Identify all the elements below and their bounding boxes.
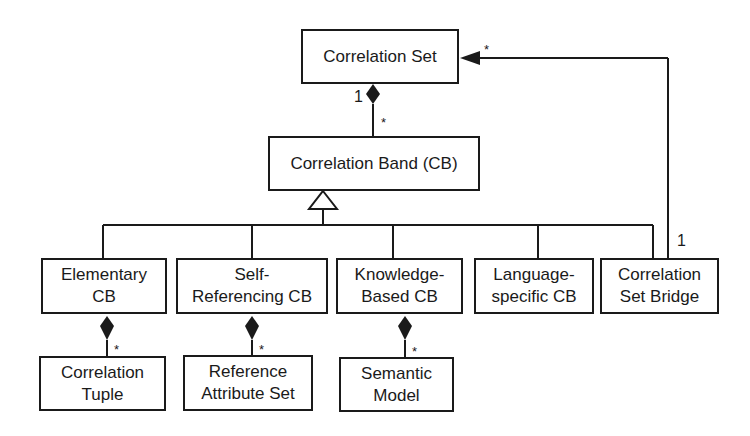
class-label-line1: Semantic <box>361 363 432 385</box>
class-label-line2: specific CB <box>491 286 576 308</box>
correlation-set-bridge-class: Correlation Set Bridge <box>600 258 719 314</box>
correlation-set-class: Correlation Set <box>301 29 459 84</box>
correlation-band-class: Correlation Band (CB) <box>268 136 480 191</box>
multiplicity-many: * <box>412 344 417 359</box>
class-label-line1: Correlation <box>61 362 144 384</box>
class-label-line2: CB <box>92 286 116 308</box>
multiplicity-many: * <box>259 342 264 357</box>
class-label-line2: Attribute Set <box>201 383 295 405</box>
class-label: Correlation Set <box>323 46 436 68</box>
class-label-line2: Referencing CB <box>192 286 312 308</box>
composition-diamond-icon <box>398 316 412 340</box>
multiplicity-one: 1 <box>354 88 363 106</box>
composition-diamond-icon <box>245 316 259 340</box>
class-label-line1: Reference <box>209 361 287 383</box>
class-label-line1: Language- <box>493 264 574 286</box>
class-label-line1: Knowledge- <box>355 264 445 286</box>
class-label-line1: Correlation <box>618 264 701 286</box>
self-referencing-cb-class: Self- Referencing CB <box>176 258 328 314</box>
composition-diamond-icon <box>100 316 114 340</box>
multiplicity-many: * <box>114 342 119 357</box>
elementary-cb-class: Elementary CB <box>41 258 167 314</box>
class-label-line2: Based CB <box>361 286 438 308</box>
class-label-line2: Tuple <box>82 384 124 406</box>
class-label-line1: Self- <box>235 264 270 286</box>
reference-attribute-set-class: Reference Attribute Set <box>183 355 313 411</box>
generalization-triangle-icon <box>309 191 337 209</box>
language-specific-cb-class: Language- specific CB <box>474 258 594 314</box>
multiplicity-one: 1 <box>677 232 686 250</box>
class-label-line2: Model <box>373 385 419 407</box>
class-label: Correlation Band (CB) <box>290 153 457 175</box>
association-arrowhead-icon <box>460 51 480 65</box>
multiplicity-many: * <box>381 115 386 130</box>
correlation-tuple-class: Correlation Tuple <box>39 356 166 411</box>
composition-diamond-icon <box>366 84 380 104</box>
semantic-model-class: Semantic Model <box>339 357 454 412</box>
knowledge-based-cb-class: Knowledge- Based CB <box>336 258 463 314</box>
class-label-line1: Elementary <box>61 264 147 286</box>
class-label-line2: Set Bridge <box>620 286 699 308</box>
multiplicity-many: * <box>484 42 489 57</box>
